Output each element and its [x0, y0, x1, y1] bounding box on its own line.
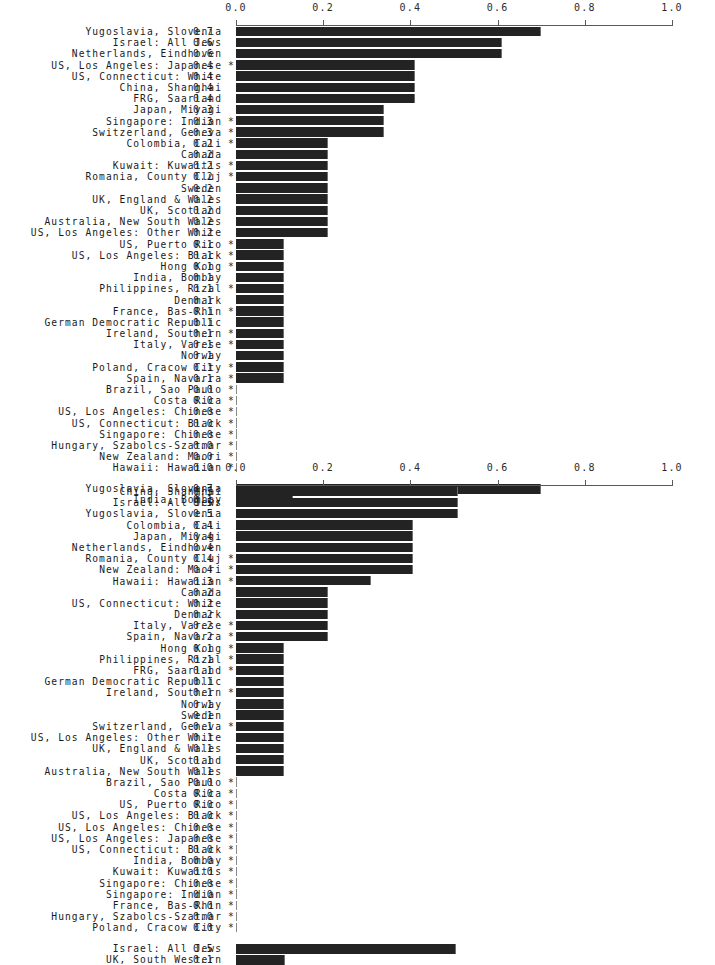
- bar-row-value: 0.1: [193, 710, 227, 721]
- bar-row-value: 0.0: [193, 833, 227, 844]
- bar: [236, 94, 415, 103]
- bar-row-value: 0.1: [193, 250, 227, 261]
- bar: [236, 373, 284, 382]
- x-axis-tick-label: 1.0: [661, 462, 683, 473]
- bar-row-value: 0.1: [193, 687, 227, 698]
- bar-row-star-marker: *: [228, 328, 234, 339]
- bar-row-star-marker: *: [228, 922, 234, 933]
- bar: [236, 531, 413, 540]
- bar-row-value: 0.4: [193, 531, 227, 542]
- bar-row: Norway0.1: [0, 699, 715, 710]
- bar-row-star-marker: *: [228, 116, 234, 127]
- bar: [236, 845, 237, 854]
- bar: [236, 621, 328, 630]
- bar-row-value: 0.1: [193, 317, 227, 328]
- bar-row: Norway0.1: [0, 350, 715, 361]
- bar: [236, 766, 284, 775]
- x-axis-tick-label: 0.0: [225, 2, 247, 13]
- bar-row: Israel: All Jews0.5: [0, 497, 715, 508]
- bar-row-value: 0.6: [193, 37, 227, 48]
- bar-row-star-marker: *: [228, 620, 234, 631]
- bar: [236, 878, 237, 887]
- bar-row-value: 0.0: [193, 810, 227, 821]
- bar-row: US, Connecticut: Black0.0*: [0, 844, 715, 855]
- bar: [236, 351, 284, 360]
- bar-row-value: 0.2: [193, 194, 227, 205]
- bar-row-value: 0.4: [193, 564, 227, 575]
- bar-row: Romania, County Cluj0.2*: [0, 171, 715, 182]
- bar-row-star-marker: *: [228, 362, 234, 373]
- bar-row-value: 0.0: [193, 429, 227, 440]
- bar: [236, 643, 284, 652]
- bar-row: US, Los Angeles: Other White0.1: [0, 732, 715, 743]
- bar-row-value: 0.1: [193, 732, 227, 743]
- bar-row-star-marker: *: [228, 418, 234, 429]
- bar-row-star-marker: *: [228, 306, 234, 317]
- bar-row-value: 0.3: [193, 116, 227, 127]
- bar-row-value: 0.5: [193, 943, 227, 954]
- bar-row: Brazil, Sao Paulo0.0*: [0, 777, 715, 788]
- bar-row: US, Los Angeles: Japanese0.0*: [0, 833, 715, 844]
- bar-row-star-marker: *: [228, 60, 234, 71]
- bar-row: US, Connecticut: White0.2: [0, 598, 715, 609]
- bar: [236, 49, 502, 58]
- bar-row: Brazil, Sao Paulo0.0*: [0, 384, 715, 395]
- x-axis-tick-label: 0.4: [400, 2, 422, 13]
- bar-row-value: 0.1: [193, 350, 227, 361]
- bar-row-star-marker: *: [228, 911, 234, 922]
- bar-row-star-marker: *: [228, 665, 234, 676]
- group-separator: [0, 934, 715, 943]
- bar-row-star-marker: *: [228, 429, 234, 440]
- bar-row-value: 0.0: [193, 900, 227, 911]
- bar-row-value: 0.1: [193, 665, 227, 676]
- bar: [236, 418, 237, 427]
- bar-row: Spain, Navarra0.2*: [0, 631, 715, 642]
- x-axis-tick-label: 0.2: [312, 2, 334, 13]
- bar-row-star-marker: *: [228, 339, 234, 350]
- bar-row-star-marker: *: [228, 406, 234, 417]
- bar: [236, 755, 284, 764]
- bar-row: Australia, New South Wales0.1: [0, 766, 715, 777]
- bar-row-star-marker: *: [228, 576, 234, 587]
- bar-row: Australia, New South Wales0.2: [0, 216, 715, 227]
- bar: [236, 396, 237, 405]
- bar-row-value: 0.2: [193, 227, 227, 238]
- bar-row-star-marker: *: [228, 564, 234, 575]
- bar-row: Netherlands, Eindhoven0.4: [0, 542, 715, 553]
- bar: [236, 362, 284, 371]
- x-axis-tick-label: 0.8: [574, 462, 596, 473]
- bar-row-value: 0.1: [193, 676, 227, 687]
- bar-row: Hawaii: Hawaiian0.3*: [0, 576, 715, 587]
- bar-row: Canada0.2: [0, 149, 715, 160]
- bar-row: India, Bombay0.0*: [0, 855, 715, 866]
- bar-row: Ireland, Southern0.1*: [0, 328, 715, 339]
- bar-row: China, Shanghai0.4: [0, 82, 715, 93]
- bar: [236, 554, 413, 563]
- bar-row: Romania, County Cluj0.4*: [0, 553, 715, 564]
- bar: [236, 407, 237, 416]
- bar: [236, 172, 328, 181]
- x-axis-bottom: 0.00.20.40.60.81.0: [0, 460, 715, 486]
- bar-row-value: 0.0: [193, 777, 227, 788]
- bar-row: Costa Rica0.0*: [0, 395, 715, 406]
- bar-row-value: 0.1: [193, 295, 227, 306]
- bar-row-value: 0.1: [193, 272, 227, 283]
- bar-row-value: 0.2: [193, 183, 227, 194]
- bar-row: Colombia, Cali0.4: [0, 520, 715, 531]
- bar-row-value: 0.4: [193, 553, 227, 564]
- bar: [236, 889, 237, 898]
- bar: [236, 498, 458, 507]
- bar-row-value: 0.4: [193, 93, 227, 104]
- bar-row-value: 0.5: [193, 497, 227, 508]
- bar-row-value: 0.2: [193, 609, 227, 620]
- bar-row-value: 0.2: [193, 631, 227, 642]
- bar-row-star-marker: *: [228, 440, 234, 451]
- bar-row-star-marker: *: [228, 171, 234, 182]
- bar-row-value: 0.5: [193, 486, 227, 497]
- bar-row-star-marker: *: [228, 844, 234, 855]
- bar-row-star-marker: *: [228, 810, 234, 821]
- bar-row-value: 0.1: [193, 328, 227, 339]
- bar-row-value: 0.4: [193, 60, 227, 71]
- bar-row: Japan, Miyagi0.3: [0, 104, 715, 115]
- bar: [236, 150, 328, 159]
